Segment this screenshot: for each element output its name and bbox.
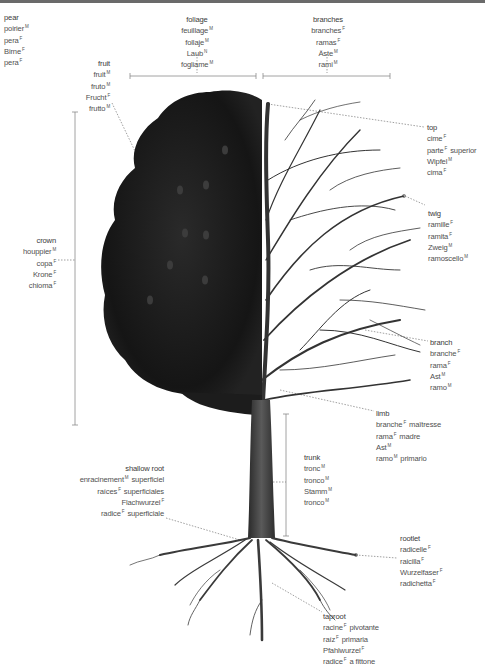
term-row: ramoM bbox=[430, 381, 460, 392]
gender-marker: F bbox=[53, 281, 56, 286]
term-text: shallow root bbox=[125, 464, 164, 473]
term-text: tronco bbox=[304, 476, 324, 485]
label-top: topcimeFparteFsuperiorWipfelMcimaF bbox=[427, 123, 476, 177]
term-text: copa bbox=[37, 259, 53, 268]
term-row: ramoMprimario bbox=[376, 452, 441, 463]
term-row: WurzelfaserF bbox=[400, 566, 442, 577]
label-rootlet: rootletradicelleFraicillaFWurzelfaserFra… bbox=[400, 534, 442, 588]
term-row: branchesF bbox=[298, 24, 358, 35]
term-text: frutto bbox=[89, 104, 105, 113]
gender-marker: F bbox=[107, 93, 110, 98]
term-text: Pfahlwurzel bbox=[323, 646, 361, 655]
term-text: trunk bbox=[304, 453, 320, 462]
trunk-shape bbox=[248, 400, 275, 538]
gender-marker: M bbox=[106, 82, 110, 87]
gender-marker: N bbox=[204, 49, 207, 54]
gender-marker: F bbox=[342, 26, 345, 31]
term-suffix: superficiel bbox=[131, 475, 164, 484]
term-row: troncM bbox=[304, 462, 332, 473]
label-branch: branchbrancheFramaFAstMramoM bbox=[430, 338, 460, 392]
foliage-mass bbox=[101, 90, 262, 416]
gender-marker: M bbox=[106, 70, 110, 75]
title-de-text: Birne bbox=[4, 47, 21, 56]
term-row: foliage bbox=[170, 15, 224, 24]
term-text: branche bbox=[376, 420, 402, 429]
term-row: ramaFmadre bbox=[376, 430, 441, 441]
gender-marker: M bbox=[52, 247, 56, 252]
label-trunk: trunktroncMtroncoMStammMtroncoM bbox=[304, 453, 332, 507]
gender-marker: F bbox=[53, 270, 56, 275]
term-row: fruitM bbox=[60, 68, 110, 79]
term-row: ÄsteM bbox=[298, 47, 358, 58]
title-fr: poirierM bbox=[4, 22, 29, 33]
term-row: fogliameM bbox=[170, 58, 224, 69]
gender-marker: F bbox=[449, 232, 452, 237]
title-es-text: pera bbox=[4, 36, 19, 45]
term-text: branches bbox=[311, 26, 341, 35]
term-row: houppierM bbox=[0, 245, 56, 256]
term-row: KroneF bbox=[0, 268, 56, 279]
term-text: tronc bbox=[304, 464, 320, 473]
gender-marker: F bbox=[20, 58, 23, 63]
term-row: radiceFa fittone bbox=[323, 655, 379, 664]
term-suffix: madre bbox=[399, 432, 420, 441]
term-row: AstM bbox=[430, 370, 460, 381]
term-text: fruit bbox=[93, 70, 105, 79]
term-row: WipfelM bbox=[427, 155, 476, 166]
term-text: rama bbox=[430, 361, 447, 370]
term-text: ramille bbox=[428, 220, 449, 229]
term-text: limb bbox=[376, 409, 389, 418]
label-fruit: fruitfruitMfrutoMFruchtFfruttoM bbox=[60, 59, 110, 113]
term-row: radiceFsuperficiale bbox=[60, 507, 164, 518]
bare-branches bbox=[262, 100, 425, 420]
term-text: radicelle bbox=[400, 545, 427, 554]
term-row: ramaF bbox=[430, 359, 460, 370]
term-suffix: primario bbox=[400, 454, 426, 463]
term-text: raíz bbox=[323, 635, 335, 644]
title-it-text: pera bbox=[4, 58, 19, 67]
term-text: parte bbox=[427, 146, 444, 155]
gender-marker: M bbox=[388, 443, 392, 448]
term-row: raícesFsuperficiales bbox=[60, 485, 164, 496]
term-row: fruttoM bbox=[60, 102, 110, 113]
term-row: PfahlwurzelF bbox=[323, 644, 379, 655]
gender-marker: F bbox=[445, 146, 448, 151]
term-text: fruit bbox=[98, 59, 110, 68]
term-text: crown bbox=[36, 236, 56, 245]
gender-marker: F bbox=[337, 38, 340, 43]
term-text: Flachwurzel bbox=[122, 498, 161, 507]
term-text: foliage bbox=[186, 15, 207, 24]
term-row: brancheFmaîtresse bbox=[376, 418, 441, 429]
title-es: peraF bbox=[4, 34, 29, 45]
gender-marker: M bbox=[209, 26, 213, 31]
term-text: tronco bbox=[304, 498, 324, 507]
gender-marker: M bbox=[325, 476, 329, 481]
term-row: chiomaF bbox=[0, 279, 56, 290]
term-row: twig bbox=[428, 209, 468, 218]
term-row: cimaF bbox=[427, 166, 476, 177]
term-row: FlachwurzelF bbox=[60, 496, 164, 507]
term-text: Frucht bbox=[86, 93, 107, 102]
gender-marker: F bbox=[122, 509, 125, 514]
term-text: rama bbox=[376, 432, 393, 441]
term-text: chioma bbox=[29, 281, 53, 290]
term-row: rootlet bbox=[400, 534, 442, 543]
term-text: feuillage bbox=[181, 26, 208, 35]
term-suffix: superior bbox=[450, 146, 476, 155]
term-suffix: maîtresse bbox=[409, 420, 441, 429]
gender-marker: F bbox=[450, 220, 453, 225]
title-it: peraF bbox=[4, 56, 29, 67]
term-row: taproot bbox=[323, 612, 379, 621]
term-text: twig bbox=[428, 209, 441, 218]
term-row: StammM bbox=[304, 485, 332, 496]
term-row: ZweigM bbox=[428, 241, 468, 252]
gender-marker: M bbox=[334, 60, 338, 65]
gender-marker: M bbox=[328, 487, 332, 492]
term-text: ramo bbox=[376, 454, 393, 463]
term-row: radichettaF bbox=[400, 577, 442, 588]
term-row: AstM bbox=[376, 441, 441, 452]
gender-marker: M bbox=[125, 475, 129, 480]
term-text: branche bbox=[430, 349, 456, 358]
term-text: fogliame bbox=[181, 60, 209, 69]
term-text: Stamm bbox=[304, 487, 327, 496]
